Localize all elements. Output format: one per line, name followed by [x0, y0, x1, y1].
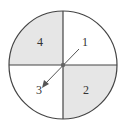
- spinner-svg: 1 2 3 4: [0, 0, 124, 136]
- sector-label-3: 3: [36, 83, 42, 97]
- spinner-diagram: 1 2 3 4: [0, 0, 124, 136]
- sector-4: [9, 11, 63, 65]
- sector-2: [63, 65, 117, 119]
- sector-label-4: 4: [37, 35, 43, 49]
- spinner-hub: [61, 63, 65, 67]
- sector-label-2: 2: [83, 83, 89, 97]
- sector-label-1: 1: [82, 35, 88, 49]
